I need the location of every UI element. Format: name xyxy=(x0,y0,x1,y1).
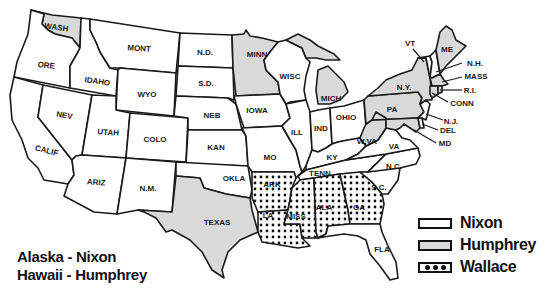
label-nj: N.J. xyxy=(444,117,459,126)
label-mich: MICH xyxy=(321,94,342,103)
label-nd: N.D. xyxy=(197,48,213,57)
dot-icon xyxy=(441,265,446,270)
label-pa: PA xyxy=(387,105,398,114)
nixon-swatch xyxy=(418,218,452,229)
label-nc: N.C. xyxy=(386,162,402,171)
label-sd: S.D. xyxy=(198,79,214,88)
leader-mass xyxy=(442,77,462,82)
leader-md xyxy=(414,130,436,143)
label-wisc: WISC xyxy=(280,72,301,81)
label-kan: KAN xyxy=(207,143,225,152)
legend-label-wallace: Wallace xyxy=(460,258,516,276)
legend-item-nixon: Nixon xyxy=(418,212,536,234)
label-ariz: ARIZ xyxy=(87,177,106,187)
legend-label-nixon: Nixon xyxy=(460,214,502,232)
state-del[interactable] xyxy=(418,118,424,128)
leader-conn xyxy=(432,93,448,102)
wallace-swatch xyxy=(418,262,452,273)
legend-item-wallace: Wallace xyxy=(418,256,536,278)
label-iowa: IOWA xyxy=(246,106,268,115)
label-minn: MINN xyxy=(247,50,268,59)
label-mont: MONT xyxy=(127,43,151,54)
label-conn: CONN xyxy=(450,99,474,108)
alaska-note: Alaska - Nixon xyxy=(17,248,116,265)
label-md: MD xyxy=(439,139,452,148)
label-wva: W.VA xyxy=(357,137,377,146)
label-me: ME xyxy=(441,45,454,54)
label-ala: ALA xyxy=(316,203,333,212)
legend-label-humphrey: Humphrey xyxy=(460,236,536,254)
label-del: DEL xyxy=(440,126,456,135)
label-ky: KY xyxy=(326,153,338,162)
label-texas: TEXAS xyxy=(204,218,231,227)
label-ri: R.I. xyxy=(464,86,476,95)
label-ohio: OHIO xyxy=(336,113,356,122)
label-neb: NEB xyxy=(204,111,221,120)
label-okla: OKLA xyxy=(223,174,246,183)
label-utah: UTAH xyxy=(97,127,119,138)
label-colo: COLO xyxy=(143,135,166,144)
label-fla: FLA xyxy=(374,245,390,254)
label-nh: N.H. xyxy=(467,59,483,68)
label-nm: N.M. xyxy=(140,184,157,193)
legend-item-humphrey: Humphrey xyxy=(418,234,536,256)
label-la: LA xyxy=(263,211,274,220)
leader-nj xyxy=(426,114,443,120)
label-miss: MISS xyxy=(286,212,306,221)
label-ind: IND xyxy=(314,124,328,133)
label-mo: MO xyxy=(264,153,277,162)
label-ark: ARK xyxy=(263,180,281,189)
label-ga: GA xyxy=(353,203,365,212)
legend: Nixon Humphrey Wallace xyxy=(418,212,536,278)
dot-icon xyxy=(425,265,430,270)
label-va: VA xyxy=(389,142,400,151)
label-wyo: WYO xyxy=(137,90,156,99)
hawaii-note: Hawaii - Humphrey xyxy=(17,266,147,283)
label-ny: N.Y. xyxy=(397,83,412,92)
dot-icon xyxy=(433,265,438,270)
label-sc: S.C. xyxy=(371,183,387,192)
label-ill: ILL xyxy=(291,128,303,137)
label-tenn: TENN xyxy=(309,169,331,178)
label-ore: ORE xyxy=(37,60,56,71)
label-mass: MASS xyxy=(464,72,488,81)
label-vt: VT xyxy=(405,39,415,48)
humphrey-swatch xyxy=(418,240,452,251)
